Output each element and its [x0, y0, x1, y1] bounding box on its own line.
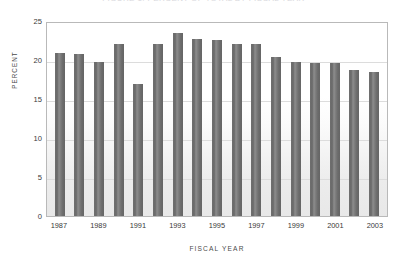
bar [330, 63, 340, 216]
y-tick-label: 10 [26, 135, 42, 143]
x-tick-label: 2003 [370, 221, 380, 235]
x-tick-blank [153, 221, 163, 235]
bar [74, 54, 84, 216]
y-tick-label: 0 [26, 213, 42, 221]
x-tick-blank [232, 221, 242, 235]
bar [349, 70, 359, 216]
x-tick-label: 1989 [93, 221, 103, 235]
bar [232, 44, 242, 216]
x-tick-label: 2001 [330, 221, 340, 235]
x-tick-blank [74, 221, 84, 235]
bar [271, 57, 281, 216]
bar [173, 33, 183, 216]
y-tick-label: 20 [26, 57, 42, 65]
x-axis-title: Fiscal Year [46, 245, 388, 252]
x-axis-tick-labels: 198719891991199319951997199920012003 [46, 221, 388, 235]
figure-title-cutoff: FIGURE 1. PERCENT OF TOTAL BY FISCAL YEA… [0, 0, 407, 4]
x-tick-label: 1997 [251, 221, 261, 235]
bar [133, 84, 143, 216]
bar [251, 44, 261, 216]
y-tick-label: 25 [26, 18, 42, 26]
x-tick-blank [350, 221, 360, 235]
bar [114, 44, 124, 216]
y-axis-title: Percent [11, 35, 18, 105]
x-tick-blank [271, 221, 281, 235]
x-tick-blank [311, 221, 321, 235]
x-tick-blank [113, 221, 123, 235]
x-tick-label: 1995 [212, 221, 222, 235]
x-tick-label: 1991 [133, 221, 143, 235]
plot-area [46, 22, 388, 217]
bar [153, 44, 163, 216]
x-tick-label: 1999 [291, 221, 301, 235]
x-tick-label: 1993 [172, 221, 182, 235]
y-tick-label: 15 [26, 96, 42, 104]
y-tick-label: 5 [26, 174, 42, 182]
bar [212, 40, 222, 216]
bar [291, 62, 301, 216]
x-tick-label: 1987 [54, 221, 64, 235]
bar [310, 63, 320, 216]
bar [55, 53, 65, 216]
x-tick-blank [192, 221, 202, 235]
bar-chart-figure: FIGURE 1. PERCENT OF TOTAL BY FISCAL YEA… [0, 0, 407, 267]
bar [369, 72, 379, 216]
bar [94, 62, 104, 216]
y-axis-tick-labels: 2520151050 [22, 22, 42, 217]
bar [192, 39, 202, 216]
bar-series [47, 23, 387, 216]
